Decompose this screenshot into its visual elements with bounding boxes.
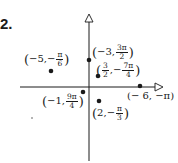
fraction: 32 — [102, 62, 109, 78]
point-label: ( 2, − π3 ) — [92, 105, 129, 121]
point-dot — [138, 84, 143, 89]
point-label: ( 32 , − 7π4 ) — [96, 62, 140, 78]
point-label: (− 6, −π) — [127, 91, 174, 101]
polar-axes — [0, 0, 178, 163]
fraction: 9π4 — [66, 93, 78, 109]
vertical-arrowhead-icon — [85, 14, 93, 22]
stray-mark — [31, 117, 33, 119]
point-label: ( −3, 3π2 ) — [92, 44, 134, 60]
fraction: π3 — [116, 105, 123, 121]
fraction: 7π4 — [122, 62, 134, 78]
fraction: π6 — [56, 51, 63, 67]
point-dot — [49, 69, 54, 74]
fraction: 3π2 — [116, 44, 128, 60]
point-dot — [97, 99, 102, 104]
point-label: ( −5, − π6 ) — [24, 51, 69, 67]
point-dot — [87, 58, 92, 63]
point-label: ( −1, 9π4 ) — [42, 93, 84, 109]
